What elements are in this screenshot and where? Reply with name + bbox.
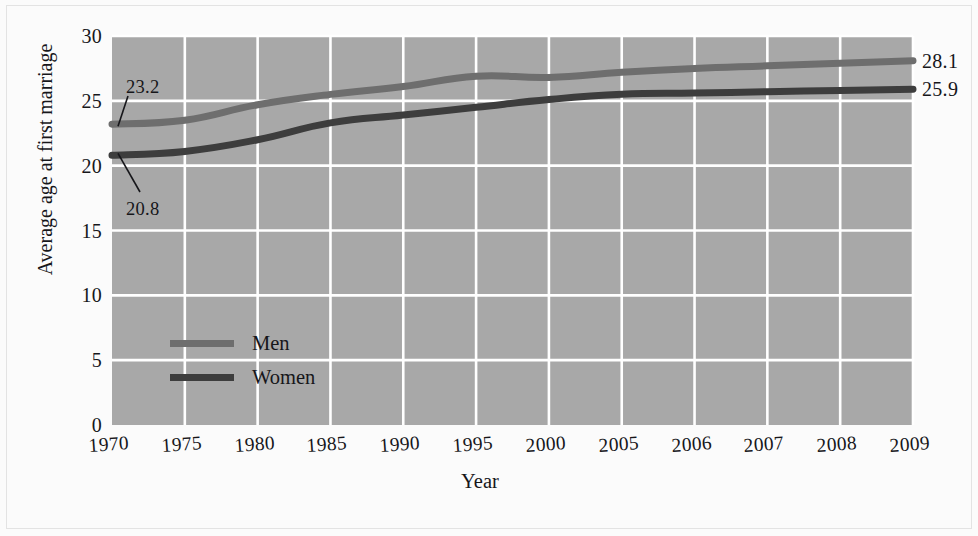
- annotation-leader-women: [118, 153, 140, 192]
- x-tick-label: 2006: [671, 433, 712, 455]
- x-tick-label: 2000: [525, 433, 566, 455]
- annotation-value-men: 23.2: [126, 78, 160, 97]
- end-label-men: 28.1: [922, 51, 958, 71]
- x-tick-label: 1980: [234, 433, 275, 455]
- x-tick-label: 2007: [743, 433, 784, 455]
- annotation-value-women: 20.8: [126, 200, 160, 219]
- x-tick-label: 1995: [452, 433, 493, 455]
- x-tick-label: 2008: [816, 433, 857, 455]
- x-axis-title: Year: [400, 470, 560, 493]
- annotation-leader-men: [118, 96, 128, 126]
- x-axis-tick-labels: 1970197519801985199019952000200520062007…: [112, 432, 913, 466]
- x-tick-label: 1985: [306, 433, 347, 455]
- end-label-women: 25.9: [922, 79, 958, 99]
- x-tick-label: 2005: [598, 433, 639, 455]
- x-tick-label: 1975: [161, 433, 202, 455]
- x-tick-label: 2009: [889, 433, 930, 455]
- x-tick-label: 1970: [88, 433, 129, 455]
- x-tick-label: 1990: [379, 433, 420, 455]
- chart-figure: Average age at first marriage 0510152025…: [0, 0, 978, 536]
